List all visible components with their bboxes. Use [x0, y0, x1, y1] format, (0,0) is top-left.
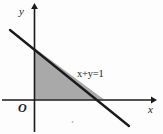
print-speck — [72, 121, 74, 123]
y-axis-arrowhead — [31, 3, 38, 9]
y-axis-label: y — [19, 6, 24, 17]
origin-label: O — [18, 102, 27, 114]
coordinate-plane-figure: y x O x+y=1 — [0, 0, 163, 134]
line-equation-label: x+y=1 — [77, 69, 104, 80]
line-x-plus-y-equals-1 — [10, 30, 129, 126]
x-axis-label: x — [148, 104, 153, 115]
